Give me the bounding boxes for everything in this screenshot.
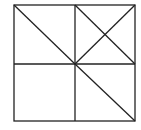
diagonal-center-to-bottom-right: [75, 64, 135, 121]
diagram-lines: [14, 5, 135, 121]
diagonal-top-left-to-center: [14, 5, 75, 64]
geometric-diagram: [0, 0, 141, 130]
